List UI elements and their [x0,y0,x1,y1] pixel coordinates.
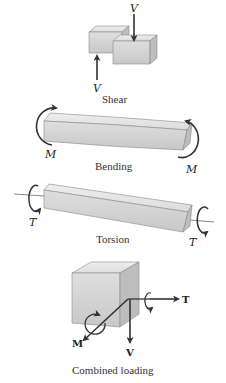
torsion-label-left: T [29,216,38,229]
bending-beam [44,113,192,150]
torsion-panel: T T Torsion [14,184,214,249]
bending-panel: M M Bending [36,108,198,176]
combined-label-moment: M [72,338,83,349]
shear-right-block [113,35,157,64]
shear-label-top: V [130,2,139,15]
combined-torque-rotation-arrow [145,293,152,309]
shear-label-bottom: V [93,82,102,95]
bending-label-left: M [44,148,57,161]
torsion-caption: Torsion [96,233,130,245]
combined-label-torque: T [182,294,190,305]
bending-caption: Bending [95,160,133,172]
shear-caption: Shear [102,93,127,105]
bending-label-right: M [185,163,198,176]
combined-caption: Combined loading [72,364,154,376]
load-types-diagram: V V Shear M M Bending T T Torsion [0,0,226,383]
combined-cube [72,262,139,327]
torsion-torque-arrow-left [29,185,40,211]
combined-label-shear: V [125,347,134,358]
torsion-torque-arrow-right [197,207,208,233]
torsion-shaft [44,184,192,232]
torsion-label-right: T [189,236,198,249]
shear-panel: V V Shear [89,2,157,105]
torsion-axis-right [190,220,214,222]
combined-panel: M V T Combined loading [72,262,190,376]
